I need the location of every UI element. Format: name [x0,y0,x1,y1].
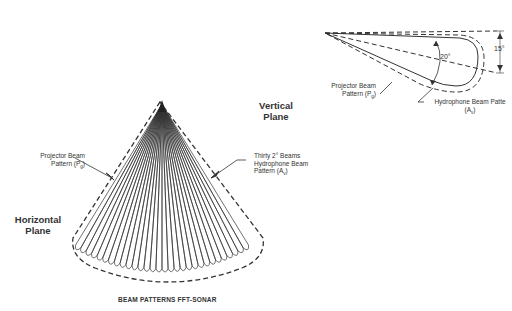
array-apex [158,100,166,112]
hydrophone-beam-lobe [75,104,162,250]
hydrophone-beam-label-vertical: Hydrophone Beam Patte (Av) [428,98,512,116]
hydrophone-beam-lobe [81,104,162,253]
hydrophone-leader [214,160,246,176]
projector-beam-label-vertical: Projector Beam Pattern (Pg) [320,82,376,100]
hydrophone-beam-lobe [114,104,162,266]
projector-beam-label-horizontal: Projector Beam Pattern (Pg) [30,152,85,170]
hydrophone-beam-lobe [92,104,163,258]
figure-caption: BEAM PATTERNS FFT-SONAR [118,296,217,303]
angle-15-label: 15° [494,45,505,52]
hydrophone-beam-label-horizontal: Thirty 2° Beams Hydrophone Beam Pattern … [254,152,308,178]
vertical-plane-label: VerticalPlane [250,100,302,122]
hydrophone-beam-fan [75,104,248,272]
vertical-hydrophone-beam [325,33,478,86]
horizontal-plane-label: HorizontalPlane [8,214,68,236]
hydrophone-beam-lobe [162,104,249,250]
angle-20-label: 20° [440,53,451,60]
hydrophone-beam-lobe [150,104,162,272]
